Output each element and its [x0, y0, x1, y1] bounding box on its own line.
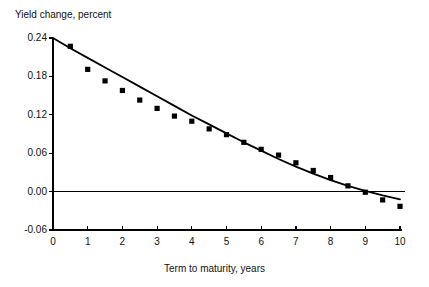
x-tick-label: 6 [251, 236, 271, 247]
x-tick-label: 2 [112, 236, 132, 247]
fitted-curve [53, 38, 400, 199]
x-tick-label: 9 [355, 236, 375, 247]
x-tick-label: 8 [321, 236, 341, 247]
x-tick-label: 4 [182, 236, 202, 247]
y-tick-label: 0.24 [13, 32, 47, 43]
y-tick-label: -0.06 [13, 224, 47, 235]
y-tick-label: 0.06 [13, 147, 47, 158]
y-tick-label: 0.00 [13, 186, 47, 197]
x-tick-label: 0 [43, 236, 63, 247]
x-tick-label: 5 [217, 236, 237, 247]
yield-change-chart: Yield change, percent 0.240.180.120.060.… [0, 0, 429, 287]
x-tick-label: 1 [78, 236, 98, 247]
y-tick-label: 0.18 [13, 70, 47, 81]
x-tick-label: 10 [390, 236, 410, 247]
data-point-markers [68, 44, 403, 209]
x-axis-label: Term to maturity, years [0, 263, 429, 275]
x-tick-label: 3 [147, 236, 167, 247]
y-tick-label: 0.12 [13, 109, 47, 120]
x-tick-label: 7 [286, 236, 306, 247]
